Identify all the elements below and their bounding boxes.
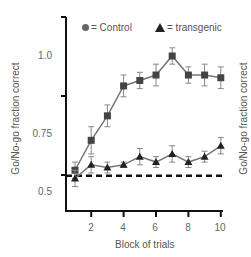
square-marker-icon xyxy=(136,77,143,84)
triangle-marker-icon xyxy=(87,161,95,168)
y-tick-label-075: 0.75 xyxy=(22,128,52,139)
triangle-marker-icon xyxy=(201,153,209,160)
square-marker-icon xyxy=(153,72,160,79)
triangle-marker-icon xyxy=(217,142,225,149)
x-tick-label-2: 2 xyxy=(81,222,101,233)
triangle-marker-icon xyxy=(155,23,165,32)
square-marker-icon xyxy=(201,72,208,79)
y-tick-label-1: 1.0 xyxy=(22,50,52,61)
square-marker-icon xyxy=(185,72,192,79)
series-transgenic xyxy=(71,138,225,187)
triangle-marker-icon xyxy=(168,150,176,157)
legend-control: = Control xyxy=(82,22,132,33)
square-marker-icon xyxy=(217,74,224,81)
x-tick-label-4: 4 xyxy=(113,222,133,233)
x-axis-label: Block of trials xyxy=(115,239,174,250)
square-marker-icon xyxy=(104,112,111,119)
y-tick-label-05: 0.5 xyxy=(22,186,52,197)
x-tick-label-8: 8 xyxy=(178,222,198,233)
legend-control-label: = Control xyxy=(91,22,132,33)
x-tick-label-6: 6 xyxy=(145,222,165,233)
square-marker-icon xyxy=(169,53,176,60)
triangle-marker-icon xyxy=(136,153,144,160)
x-tick-label-10: 10 xyxy=(210,222,230,233)
square-marker-icon xyxy=(88,137,95,144)
square-marker-icon xyxy=(120,82,127,89)
y-axis-label: Go/No-go fraction correct xyxy=(10,54,21,184)
legend-transgenic: = transgenic xyxy=(155,22,222,33)
legend-transgenic-label: = transgenic xyxy=(167,22,222,33)
circle-marker-icon xyxy=(82,24,89,31)
series-layer xyxy=(71,48,225,187)
y-axis-label-right-clipped: Go/No-go fraction correct xyxy=(238,54,249,184)
